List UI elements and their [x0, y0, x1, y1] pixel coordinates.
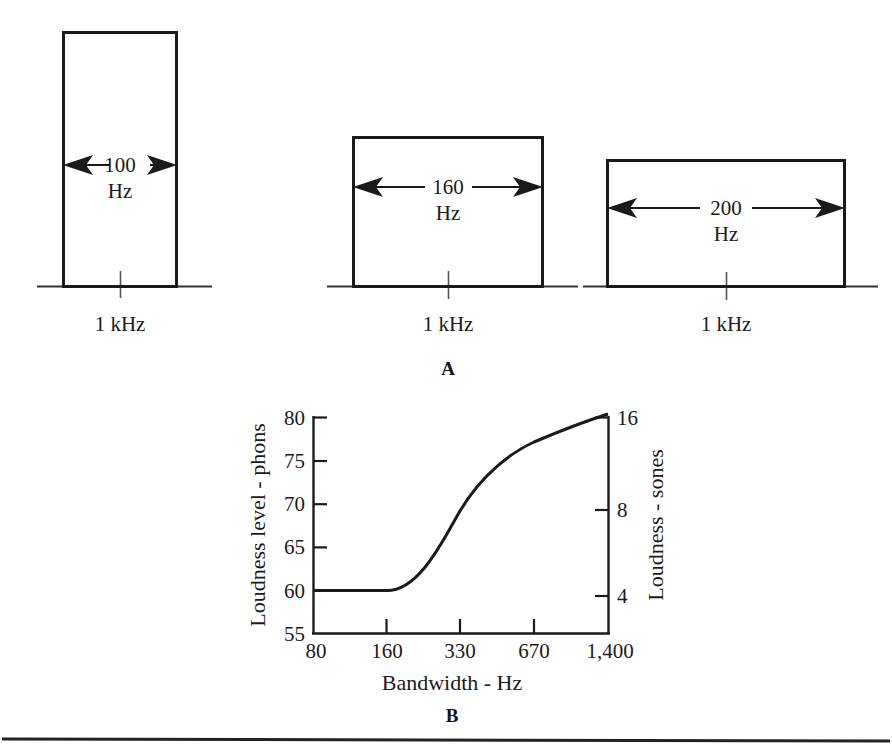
chart-ylabel-70: 70	[284, 492, 305, 516]
band-1-center-label: 1 kHz	[95, 312, 146, 336]
chart-ylabel-55: 55	[284, 622, 305, 646]
chart-ylabel-80: 80	[284, 406, 305, 430]
chart-x-axis-title: Bandwidth - Hz	[382, 670, 523, 695]
band-2-center-label: 1 kHz	[423, 312, 474, 336]
chart-left-ticks	[314, 418, 328, 591]
chart-b-group: 80 75 70 65 60 55 16 8 4 80 160 330 670 …	[245, 406, 668, 726]
figure-canvas: 100 Hz 1 kHz 160 Hz 1 kHz	[0, 0, 892, 752]
band-1-unit-label: Hz	[108, 179, 133, 203]
band-2-width-label: 160	[432, 175, 464, 199]
chart-y-axis-title: Loudness level - phons	[245, 423, 270, 626]
band-1-width-label: 100	[104, 153, 136, 177]
chart-ylabel-60: 60	[284, 579, 305, 603]
chart-right-ticks	[595, 418, 609, 597]
chart-y2label-16: 16	[617, 406, 638, 430]
chart-xlabel-80: 80	[306, 639, 327, 663]
band-2-unit-label: Hz	[436, 201, 461, 225]
bottom-divider	[2, 739, 890, 741]
chart-x-ticks	[387, 619, 535, 633]
chart-y2-axis-title: Loudness - sones	[643, 449, 668, 601]
band-1-group: 100 Hz 1 kHz	[37, 33, 212, 337]
band-3-width-label: 200	[710, 196, 742, 220]
panel-letter-b: B	[446, 705, 459, 726]
chart-y2label-4: 4	[617, 584, 628, 608]
chart-ylabel-75: 75	[284, 449, 305, 473]
panel-letter-a: A	[441, 358, 455, 379]
chart-ylabel-65: 65	[284, 535, 305, 559]
figure-root: 100 Hz 1 kHz 160 Hz 1 kHz	[0, 0, 892, 752]
band-2-group: 160 Hz 1 kHz	[327, 138, 578, 337]
chart-y2label-8: 8	[617, 498, 628, 522]
chart-xlabel-1400: 1,400	[586, 639, 633, 663]
band-3-group: 200 Hz 1 kHz	[583, 161, 878, 337]
band-3-unit-label: Hz	[714, 222, 739, 246]
chart-xlabel-330: 330	[444, 639, 476, 663]
chart-data-line	[314, 414, 608, 591]
chart-xlabel-670: 670	[518, 639, 550, 663]
band-3-center-label: 1 kHz	[701, 312, 752, 336]
chart-xlabel-160: 160	[371, 639, 403, 663]
